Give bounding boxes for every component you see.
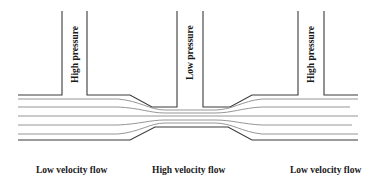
flow-label-inlet: Low velocity flow — [36, 165, 107, 175]
venturi-diagram: High pressure Low pressure High pressure… — [0, 0, 377, 183]
pipe-lower-wall — [18, 127, 358, 140]
streamline-4 — [18, 120, 352, 125]
streamline-1 — [18, 99, 358, 110]
flow-label-throat: High velocity flow — [152, 165, 225, 175]
flow-label-outlet: Low velocity flow — [290, 165, 361, 175]
tube-label-left: High pressure — [70, 26, 80, 83]
tube-label-middle: Low pressure — [185, 25, 195, 80]
streamlines — [18, 99, 358, 134]
tube-label-right: High pressure — [306, 26, 316, 83]
